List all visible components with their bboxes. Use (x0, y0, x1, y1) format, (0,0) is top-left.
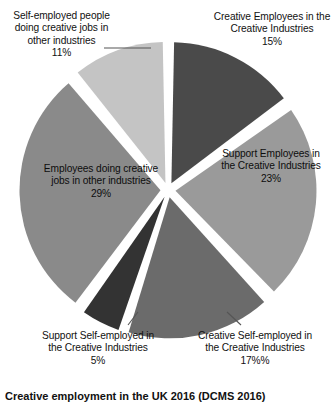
slice-label-support-self-employed: Support Self-employed in the Creative In… (36, 330, 160, 367)
slice-label-self-employed-other: Self-employed people doing creative jobs… (4, 10, 119, 59)
slice-label-employees-other: Employees doing creative jobs in other i… (40, 163, 162, 200)
slice-label-creative-self-employed: Creative Self-employed in the Creative I… (190, 330, 320, 367)
slice-label-support-employees: Support Employees in the Creative Indust… (221, 148, 321, 185)
chart-caption: Creative employment in the UK 2016 (DCMS… (5, 390, 335, 403)
slice-label-creative-employees: Creative Employees in the Creative Indus… (212, 11, 332, 48)
